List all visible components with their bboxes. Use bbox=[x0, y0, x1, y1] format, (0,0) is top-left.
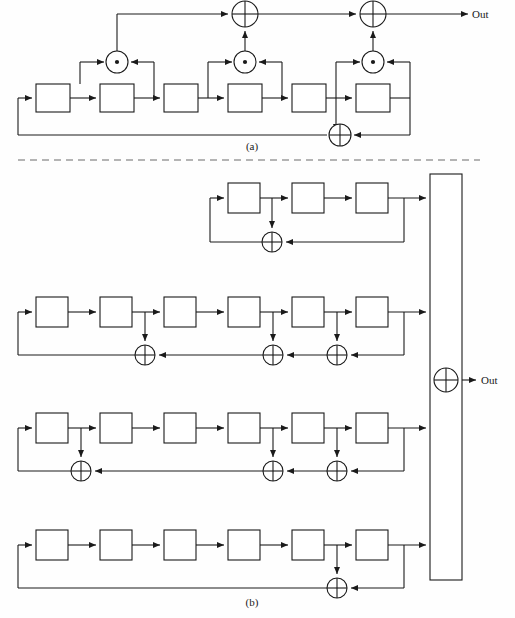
xor-gate-lfsr3-2 bbox=[263, 461, 283, 481]
register-lfsr4-4 bbox=[228, 530, 260, 560]
caption-panel-a: (a) bbox=[246, 140, 259, 153]
lfsr-2 bbox=[18, 297, 426, 365]
and-gate-a-3 bbox=[362, 51, 384, 73]
xor-gate-lfsr4-1 bbox=[327, 578, 347, 598]
panel-a-output-bus bbox=[117, 14, 468, 62]
and-gate-a-1 bbox=[106, 51, 128, 73]
block-diagram: (a) Out Out bbox=[0, 0, 515, 618]
figure-canvas: (a) Out Out bbox=[0, 0, 515, 618]
xor-gate-lfsr3-3 bbox=[327, 461, 347, 481]
register-lfsr4-5 bbox=[292, 530, 324, 560]
xor-gate-a-1 bbox=[232, 1, 258, 27]
register-lfsr3-3 bbox=[164, 413, 196, 443]
register-lfsr3-6 bbox=[356, 413, 388, 443]
xor-gate-a-2 bbox=[360, 1, 386, 27]
register-lfsr4-2 bbox=[100, 530, 132, 560]
register-lfsr2-5 bbox=[292, 297, 324, 327]
lfsr-1 bbox=[210, 183, 426, 252]
xor-gate-a-feedback bbox=[329, 124, 351, 146]
register-lfsr3-5 bbox=[292, 413, 324, 443]
register-lfsr3-4 bbox=[228, 413, 260, 443]
panel-a: (a) Out bbox=[18, 1, 489, 153]
register-a-5 bbox=[292, 84, 326, 112]
and-gate-a-2 bbox=[234, 51, 256, 73]
xor-gate-combiner bbox=[434, 368, 458, 392]
caption-panel-b: (b) bbox=[246, 596, 259, 609]
register-lfsr2-3 bbox=[164, 297, 196, 327]
register-lfsr2-1 bbox=[36, 297, 68, 327]
register-lfsr2-2 bbox=[100, 297, 132, 327]
register-lfsr4-3 bbox=[164, 530, 196, 560]
register-lfsr3-2 bbox=[100, 413, 132, 443]
output-label-b: Out bbox=[481, 374, 498, 386]
register-lfsr2-6 bbox=[356, 297, 388, 327]
register-lfsr3-1 bbox=[36, 413, 68, 443]
register-a-4 bbox=[228, 84, 262, 112]
lfsr-4 bbox=[18, 530, 426, 598]
xor-gate-lfsr2-3 bbox=[327, 345, 347, 365]
register-a-6 bbox=[356, 84, 390, 112]
register-a-1 bbox=[36, 84, 70, 112]
register-lfsr4-1 bbox=[36, 530, 68, 560]
xor-gate-lfsr2-2 bbox=[263, 345, 283, 365]
register-lfsr1-3 bbox=[356, 183, 388, 213]
output-label-a: Out bbox=[472, 8, 489, 20]
xor-gate-lfsr2-1 bbox=[135, 345, 155, 365]
register-lfsr1-2 bbox=[292, 183, 324, 213]
register-lfsr2-4 bbox=[228, 297, 260, 327]
register-a-3 bbox=[164, 84, 198, 112]
register-a-2 bbox=[100, 84, 134, 112]
panel-b: Out bbox=[18, 174, 498, 609]
register-lfsr1-1 bbox=[228, 183, 260, 213]
register-lfsr4-6 bbox=[356, 530, 388, 560]
xor-gate-lfsr3-1 bbox=[71, 461, 91, 481]
xor-gate-lfsr1-1 bbox=[262, 232, 282, 252]
lfsr-3 bbox=[18, 413, 426, 481]
